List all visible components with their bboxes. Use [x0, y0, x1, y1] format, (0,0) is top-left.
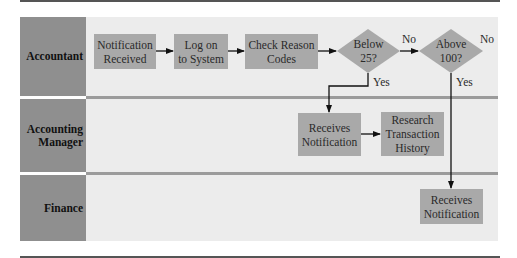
edge-label-above-yes: Yes — [456, 76, 473, 89]
process-check-reason-codes: Check ReasonCodes — [245, 34, 318, 69]
decision-below-25-text: Below25? — [341, 37, 396, 65]
edge-label-above-no: No — [480, 33, 494, 46]
process-notification-received: NotificationReceived — [94, 34, 156, 69]
process-research-transaction-history: ResearchTransactionHistory — [381, 112, 444, 156]
edge-label-below-yes: Yes — [373, 76, 390, 89]
process-log-on: Log onto System — [174, 34, 228, 69]
process-finance-receives-notification: ReceivesNotification — [420, 189, 483, 224]
process-manager-receives-notification: ReceivesNotification — [298, 113, 361, 156]
edge-label-below-no: No — [402, 33, 416, 46]
decision-above-100-text: Above100? — [423, 37, 479, 65]
